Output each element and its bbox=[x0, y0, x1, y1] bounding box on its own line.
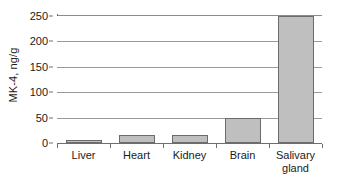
y-tick-mark bbox=[49, 143, 53, 144]
y-tick-mark bbox=[49, 41, 53, 42]
bar bbox=[172, 135, 208, 143]
x-tick-mark bbox=[216, 144, 217, 148]
x-tick-mark bbox=[57, 144, 58, 148]
y-axis-title-text: MK-4, ng/g bbox=[7, 48, 19, 103]
bar-chart-figure: MK-4, ng/g 050100150200250 LiverHeartKid… bbox=[0, 0, 339, 182]
y-axis-ticks: 050100150200250 bbox=[24, 16, 53, 143]
y-tick-label: 100 bbox=[30, 86, 48, 98]
plot-area bbox=[57, 16, 322, 143]
bar bbox=[119, 135, 155, 143]
x-tick-mark bbox=[110, 144, 111, 148]
x-tick-label: Liver bbox=[72, 149, 96, 162]
y-tick-label: 200 bbox=[30, 35, 48, 47]
x-tick-mark bbox=[163, 144, 164, 148]
y-tick-label: 0 bbox=[42, 137, 48, 149]
y-tick-mark bbox=[49, 66, 53, 67]
x-axis-labels: LiverHeartKidneyBrainSalivary gland bbox=[57, 149, 322, 182]
y-tick-label: 150 bbox=[30, 61, 48, 73]
x-tick-label: Brain bbox=[230, 149, 256, 162]
y-axis-title: MK-4, ng/g bbox=[2, 0, 24, 150]
y-tick-mark bbox=[49, 16, 53, 17]
x-tick-mark bbox=[322, 144, 323, 148]
x-tick-label: Salivary gland bbox=[276, 149, 315, 175]
x-tick-label: Heart bbox=[123, 149, 150, 162]
y-tick-label: 50 bbox=[36, 112, 48, 124]
bar bbox=[66, 140, 102, 143]
y-tick-mark bbox=[49, 117, 53, 118]
x-tick-label: Kidney bbox=[173, 149, 207, 162]
x-axis-line bbox=[57, 143, 322, 144]
bar-series bbox=[57, 16, 322, 143]
y-tick-mark bbox=[49, 92, 53, 93]
x-tick-mark bbox=[269, 144, 270, 148]
bar bbox=[278, 16, 314, 143]
y-tick-label: 250 bbox=[30, 10, 48, 22]
bar bbox=[225, 118, 261, 143]
